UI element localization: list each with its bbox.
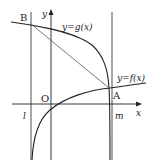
line-l-label: l	[23, 111, 26, 121]
y-axis-label: y	[41, 9, 48, 19]
y-axis	[49, 9, 54, 160]
curve-g-label: y=g(x)	[61, 22, 93, 32]
x-axis-arrow-icon	[136, 102, 142, 107]
x-axis-label: x	[136, 108, 141, 118]
y-axis-arrow-icon	[49, 9, 54, 15]
origin-label: O	[41, 93, 49, 104]
curve-f-label: y=f(x)	[116, 73, 146, 83]
point-A-label: A	[112, 90, 121, 101]
x-axis	[12, 102, 142, 107]
line-m-label: m	[115, 111, 124, 121]
point-B-label: B	[20, 12, 27, 23]
segment-BA	[31, 24, 109, 88]
curve-g	[11, 22, 110, 160]
function-graph-diagram: B y y=g(x) y=f(x) A O x l m	[0, 0, 162, 163]
